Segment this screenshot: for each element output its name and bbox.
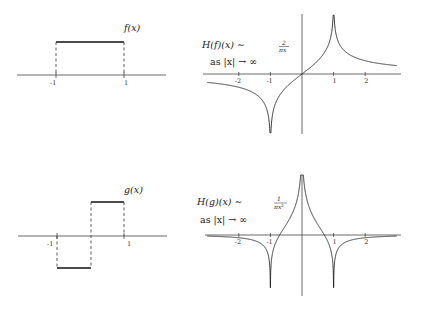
g-ticklabel-minus1: -1 xyxy=(47,240,53,248)
f-label: f(x) xyxy=(123,22,141,33)
tick-label: -2 xyxy=(235,238,241,246)
tick-label: 2 xyxy=(364,77,368,85)
Hg-annotation-main: H(g)(x) ∼ xyxy=(196,196,243,207)
tick-label: 2 xyxy=(364,238,368,246)
figure: -1 1 f(x) -2-112 H(f)(x) ∼ 2 πx as |x| →… xyxy=(0,0,421,309)
panel-g: -1 1 g(x) xyxy=(18,184,167,268)
tick-label: -2 xyxy=(235,77,241,85)
Hf-annotation-main: H(f)(x) ∼ xyxy=(201,39,245,50)
panel-Hf: -2-112 H(f)(x) ∼ 2 πx as |x| → ∞ xyxy=(201,14,401,134)
Hf-annotation-num: 2 xyxy=(281,39,286,46)
Hf-annotation-limit: as |x| → ∞ xyxy=(210,56,257,68)
g-ticklabel-1: 1 xyxy=(127,240,131,248)
tick-label: -1 xyxy=(266,77,272,85)
Hg-annotation: H(g)(x) ∼ xyxy=(196,196,243,207)
Hg-annotation-den: πx² xyxy=(273,203,284,210)
Hg-annotation-num: 1 xyxy=(277,195,281,202)
f-ticklabel-minus1: -1 xyxy=(50,79,56,87)
Hf-annotation: H(f)(x) ∼ xyxy=(201,39,245,50)
f-ticklabel-1: 1 xyxy=(124,79,128,87)
panel-f: -1 1 f(x) xyxy=(17,22,166,87)
Hf-annotation-den: πx xyxy=(278,46,287,53)
tick-label: -1 xyxy=(266,238,272,246)
tick-label: 1 xyxy=(333,238,337,246)
panel-Hg: -2-112 H(g)(x) ∼ 1 πx² as |x| → ∞ xyxy=(196,175,401,296)
Hg-annotation-limit: as |x| → ∞ xyxy=(200,214,247,226)
g-label: g(x) xyxy=(124,184,143,195)
tick-label: 1 xyxy=(333,77,337,85)
